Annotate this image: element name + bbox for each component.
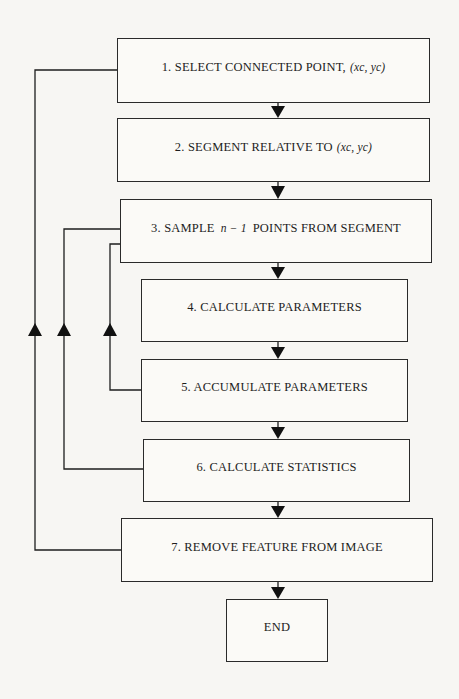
step-text: 5. ACCUMULATE PARAMETERS [181, 380, 368, 395]
step-4-calculate-parameters: 4. CALCULATE PARAMETERS [141, 279, 408, 342]
step-text: END [264, 620, 290, 635]
step-math: (xc, yc) [337, 141, 372, 153]
step-text: 2. SEGMENT RELATIVE TO [175, 140, 333, 154]
arrow-down-icon [271, 186, 285, 199]
step-label: 1. SELECT CONNECTED POINT,(xc, yc) [162, 60, 386, 75]
arrow-up-icon [103, 323, 117, 336]
step-label: 2. SEGMENT RELATIVE TO(xc, yc) [175, 140, 372, 155]
step-end: END [226, 599, 328, 662]
step-3-sample-points: 3. SAMPLEn − 1POINTS FROM SEGMENT [120, 199, 432, 263]
arrow-down-icon [271, 347, 285, 359]
arrow-down-icon [271, 106, 285, 118]
step-text: 4. CALCULATE PARAMETERS [187, 300, 362, 315]
arrow-down-icon [271, 427, 285, 439]
arrow-down-icon [271, 267, 285, 279]
step-5-accumulate-parameters: 5. ACCUMULATE PARAMETERS [141, 359, 408, 422]
arrow-down-icon [271, 587, 285, 599]
step-text-after: POINTS FROM SEGMENT [253, 221, 401, 235]
step-1-select-connected-point: 1. SELECT CONNECTED POINT,(xc, yc) [117, 38, 430, 103]
arrow-down-icon [271, 506, 285, 518]
step-2-segment-relative: 2. SEGMENT RELATIVE TO(xc, yc) [117, 118, 430, 182]
step-7-remove-feature: 7. REMOVE FEATURE FROM IMAGE [121, 518, 433, 582]
step-math: n − 1 [221, 222, 247, 234]
step-6-calculate-statistics: 6. CALCULATE STATISTICS [143, 439, 410, 502]
step-text: 3. SAMPLE [151, 221, 215, 235]
arrow-up-icon [28, 323, 42, 336]
step-text: 6. CALCULATE STATISTICS [196, 460, 356, 475]
flowchart: 1. SELECT CONNECTED POINT,(xc, yc) 2. SE… [0, 0, 459, 699]
step-label: 3. SAMPLEn − 1POINTS FROM SEGMENT [151, 221, 401, 236]
step-text: 7. REMOVE FEATURE FROM IMAGE [171, 540, 383, 555]
step-text: 1. SELECT CONNECTED POINT, [162, 60, 346, 74]
arrow-up-icon [57, 323, 71, 336]
connector-lines [0, 0, 459, 699]
step-math: (xc, yc) [350, 61, 385, 73]
